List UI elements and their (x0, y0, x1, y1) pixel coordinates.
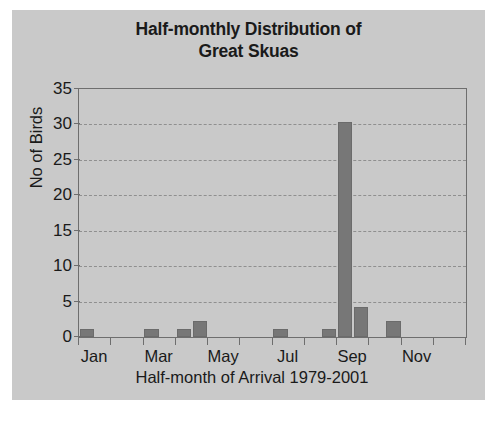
x-tick-mark (175, 338, 176, 345)
x-axis-label: Half-month of Arrival 1979-2001 (52, 368, 452, 387)
gridline (79, 302, 466, 303)
gridline (79, 195, 466, 196)
x-tick-mark (465, 338, 466, 345)
bar (354, 307, 368, 337)
gridline (79, 266, 466, 267)
y-tick-label: 30 (14, 115, 72, 132)
y-tick-label: 35 (14, 80, 72, 97)
y-axis-ticks: 05101520253035 (12, 88, 72, 336)
y-tick-label: 0 (14, 328, 72, 345)
y-tick-label: 25 (14, 150, 72, 167)
x-tick-mark (78, 338, 79, 345)
x-tick-mark (110, 338, 111, 345)
y-tick-label: 15 (14, 221, 72, 238)
x-tick-mark (368, 338, 369, 345)
bar (338, 122, 352, 337)
bar (322, 329, 336, 338)
y-tick-label: 10 (14, 257, 72, 274)
bar (177, 329, 191, 338)
bar (386, 321, 400, 337)
bar (273, 329, 287, 338)
bar (80, 329, 94, 338)
gridline (79, 231, 466, 232)
x-tick-label: Jul (258, 347, 318, 366)
x-tick-mark (433, 338, 434, 345)
x-tick-mark (239, 338, 240, 345)
x-tick-mark (207, 338, 208, 345)
gridline (79, 124, 466, 125)
chart-title: Half-monthly Distribution of Great Skuas (12, 18, 485, 62)
x-tick-mark (304, 338, 305, 345)
x-tick-label: Sep (322, 347, 382, 366)
x-tick-mark (336, 338, 337, 345)
x-tick-mark (143, 338, 144, 345)
bar (193, 321, 207, 337)
x-tick-label: Mar (129, 347, 189, 366)
x-tick-label: May (193, 347, 253, 366)
y-tick-label: 5 (14, 292, 72, 309)
gridline (79, 160, 466, 161)
y-tick-label: 20 (14, 186, 72, 203)
x-tick-label: Nov (387, 347, 447, 366)
chart-title-line-2: Great Skuas (12, 40, 485, 62)
x-tick-mark (401, 338, 402, 345)
x-tick-label: Jan (64, 347, 124, 366)
plot-area (78, 88, 467, 338)
x-tick-mark (272, 338, 273, 345)
chart-title-line-1: Half-monthly Distribution of (12, 18, 485, 40)
bar (144, 329, 158, 338)
chart-container: Half-monthly Distribution of Great Skuas… (12, 10, 485, 400)
